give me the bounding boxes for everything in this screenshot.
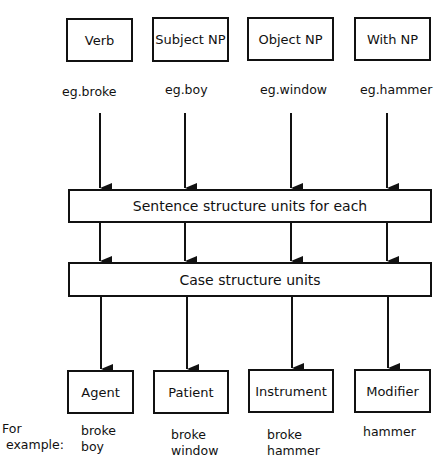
with-np-box: With NP [354,17,431,61]
sentence-structure-box: Sentence structure units for each [68,189,432,223]
instrument-example: broke hammer [267,427,320,459]
subject-np-label: Subject NP [155,32,225,47]
sentence-structure-label: Sentence structure units for each [133,198,367,214]
patient-box: Patient [153,370,229,414]
verb-label: Verb [85,33,114,48]
verb-box: Verb [66,18,133,62]
case-structure-box: Case structure units [68,262,432,297]
subject-example: eg.boy [165,82,208,97]
for-example-label: For example: [2,421,64,453]
with-np-label: With NP [367,32,418,47]
agent-label: Agent [81,385,119,400]
verb-example: eg.broke [62,84,117,99]
with-example: eg.hammer [360,82,432,97]
object-example: eg.window [260,82,327,97]
agent-example: broke boy [81,423,116,455]
modifier-example: hammer [363,424,416,440]
instrument-label: Instrument [255,384,327,399]
case-structure-label: Case structure units [179,272,320,288]
instrument-box: Instrument [248,369,334,413]
patient-example: broke window [171,427,218,459]
object-np-label: Object NP [258,32,322,47]
agent-box: Agent [67,370,134,414]
modifier-box: Modifier [354,369,431,413]
patient-label: Patient [168,385,213,400]
modifier-label: Modifier [366,384,419,399]
object-np-box: Object NP [247,17,334,61]
subject-np-box: Subject NP [152,17,229,62]
